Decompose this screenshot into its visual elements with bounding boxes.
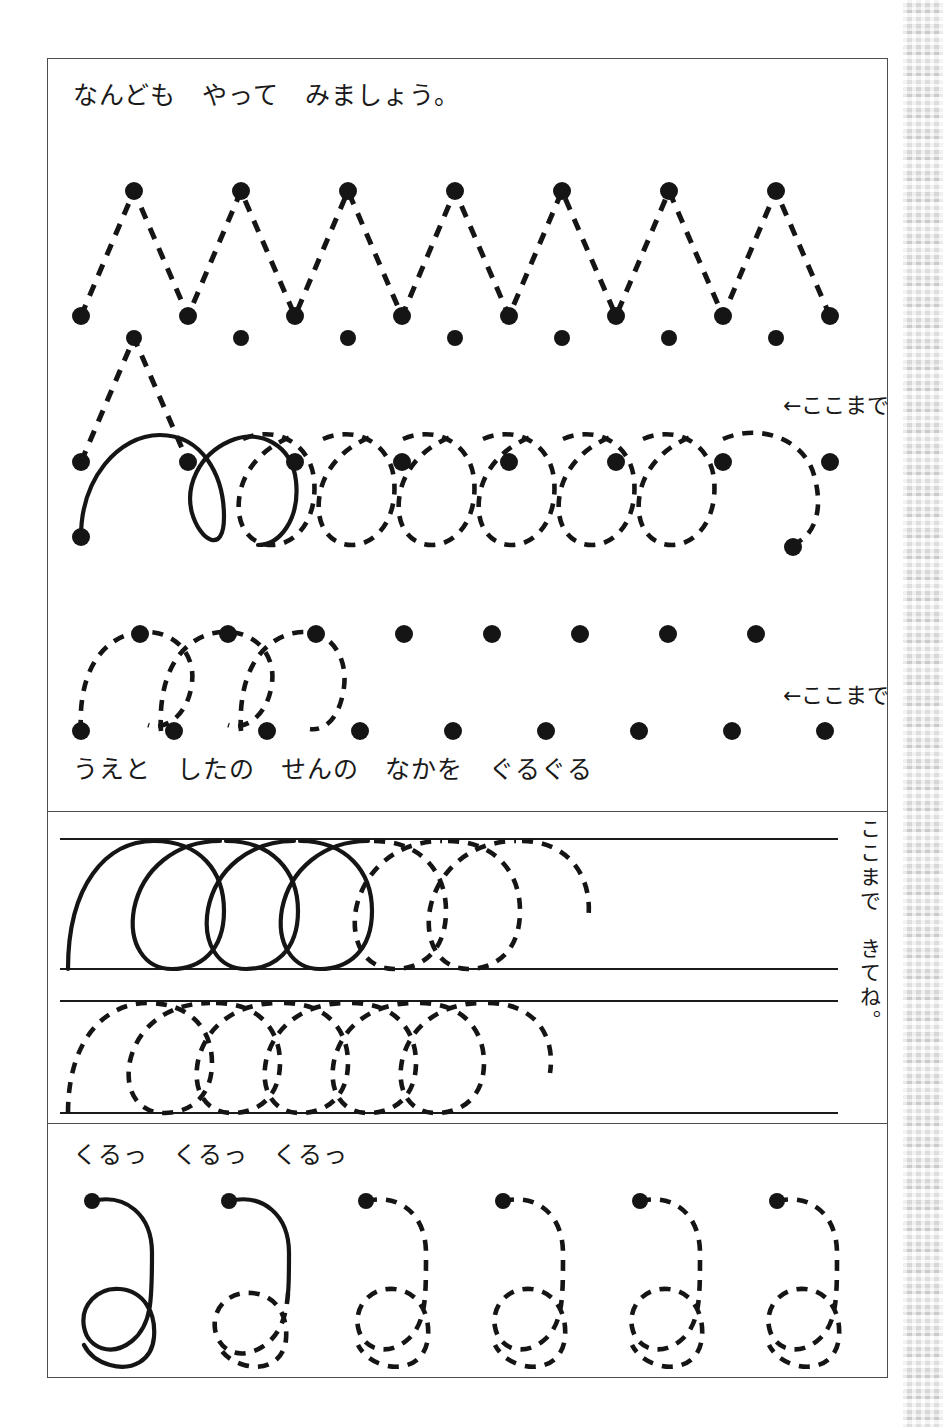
bottom-instruction-text: くるっ くるっ くるっ bbox=[73, 1135, 348, 1170]
ruled-bands-section bbox=[48, 811, 889, 1121]
zigzag-row-1 bbox=[72, 182, 839, 325]
vertical-side-note: ここまで きてね。 bbox=[858, 818, 879, 1034]
band2-loops bbox=[68, 1003, 551, 1113]
loop-section bbox=[48, 419, 889, 739]
worksheet-sheet: なんども やって みましょう。 bbox=[47, 58, 888, 1378]
here-label-2: ←ここまで bbox=[783, 677, 889, 709]
here-label-1: ←ここまで bbox=[783, 387, 889, 419]
instruction-text: うえと したの せんの なかを ぐるぐる bbox=[73, 749, 593, 785]
spiral-3 bbox=[357, 1193, 428, 1367]
spiral-2 bbox=[215, 1193, 289, 1367]
spiral-5 bbox=[631, 1193, 702, 1367]
spiral-4 bbox=[494, 1193, 565, 1367]
spiral-1 bbox=[83, 1193, 154, 1367]
spiral-6 bbox=[768, 1193, 839, 1367]
loop-row-1 bbox=[72, 433, 818, 556]
scan-binding-edge bbox=[903, 0, 943, 1427]
page-title: なんども やって みましょう。 bbox=[73, 75, 460, 111]
spiral-section bbox=[48, 1181, 889, 1371]
band1-loops bbox=[68, 841, 589, 969]
divider-below-bands bbox=[48, 1123, 887, 1124]
loop-row-2 bbox=[72, 625, 834, 740]
